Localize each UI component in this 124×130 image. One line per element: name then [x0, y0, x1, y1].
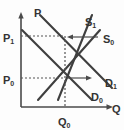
price-label-p1: P1 — [3, 29, 14, 45]
demand-shift-arrowhead — [86, 75, 92, 80]
demand-curve-d1 — [40, 15, 112, 88]
quantity-label-q0: Q0 — [58, 113, 70, 129]
curve-label-d1: D1 — [105, 74, 117, 90]
supply-demand-chart: P Q P1 P0 Q0 S1 S0 D1 D0 — [0, 0, 124, 130]
y-axis-label: P — [34, 4, 41, 20]
price-label-p0: P0 — [3, 71, 14, 87]
supply-shift-arrowhead — [67, 34, 73, 39]
curve-label-s0: S0 — [103, 30, 114, 46]
x-axis-label: Q — [112, 100, 121, 116]
curve-label-s1: S1 — [85, 13, 96, 29]
curve-label-d0: D0 — [91, 88, 103, 104]
chart-canvas — [0, 0, 124, 130]
y-axis-arrowhead — [18, 12, 23, 19]
